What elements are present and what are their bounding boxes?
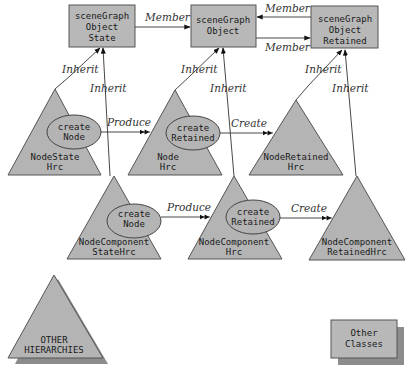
edge-label: Member [144,11,191,23]
method-label-line: Retained [171,133,214,143]
hierarchy-label-line: Node [157,152,179,162]
member-edge: Member [257,2,311,17]
edge-label: Inherit [304,63,342,75]
hierarchy-label-line: Hrc [288,162,304,172]
hierarchy-label-line: Hrc [226,247,242,257]
class-label-line: Retained [323,36,366,46]
create-edge: Create [280,202,332,218]
hierarchy-nodecomponent-state-hrc: create Node NodeComponent StateHrc [67,176,161,259]
method-label-line: create [177,123,210,133]
edge-label: Member [264,2,311,14]
hierarchy-nodecomponent-hrc: create Retained NodeComponent Hrc [188,176,282,259]
hierarchy-label-line: NodeState [31,152,80,162]
class-box-scenegraph-object-retained: sceneGraph Object Retained [311,6,378,48]
edge-label: Inherit [331,82,369,94]
edge-label: Inherit [61,63,99,75]
legend-label-line: Other [350,328,378,338]
method-label-line: Node [63,132,85,142]
scene-graph-class-diagram: sceneGraph Object State sceneGraph Objec… [0,0,411,377]
edge-label: Create [291,202,327,214]
hierarchy-label-line: RetainedHrc [327,247,387,257]
class-box-scenegraph-object-state: sceneGraph Object State [69,5,135,47]
hierarchy-label-line: NodeComponent [322,237,392,247]
legend-other-classes: Other Classes [331,320,404,365]
member-edge: Member [135,11,191,27]
method-label-line: create [118,209,151,219]
edge-label: Member [264,41,311,53]
legend-label-line: HIERARCHIES [24,345,84,355]
legend-other-hierarchies: OTHER HIERARCHIES [8,275,108,364]
hierarchy-label-line: NodeComponent [199,237,269,247]
legend-label-line: OTHER [40,335,68,345]
hierarchy-node-retained-hrc: NodeRetained Hrc [249,100,343,175]
edge-label: Inherit [180,63,218,75]
method-label-line: create [237,207,270,217]
produce-edge: Produce [161,201,211,217]
class-label-line: sceneGraph [75,11,129,21]
edge-label: Create [231,117,267,129]
method-label-line: create [58,122,91,132]
class-box-scenegraph-object: sceneGraph Object [191,5,256,47]
class-label-line: Object [329,25,362,35]
edge-label: Produce [106,116,151,128]
hierarchy-label-line: Hrc [47,162,63,172]
hierarchy-label-line: StateHrc [92,247,135,257]
member-edge: Member [256,38,311,53]
method-label-line: Retained [231,217,274,227]
edge-label: Produce [166,201,211,213]
class-label-line: Object [207,26,240,36]
hierarchy-node-hrc: create Retained Node Hrc [128,90,222,175]
hierarchy-label-line: Hrc [160,162,176,172]
class-label-line: State [88,33,115,43]
class-label-line: sceneGraph [196,15,250,25]
create-edge: Create [220,117,273,133]
hierarchy-node-state-hrc: create Node NodeState Hrc [8,89,101,175]
legend-label-line: Classes [345,339,383,349]
edge-label: Inherit [209,82,247,94]
produce-edge: Produce [101,116,151,132]
class-label-line: Object [86,22,119,32]
hierarchy-label-line: NodeRetained [263,152,328,162]
edge-label: Inherit [89,82,127,94]
class-label-line: sceneGraph [318,14,372,24]
hierarchy-label-line: NodeComponent [79,237,149,247]
method-label-line: Node [123,219,145,229]
